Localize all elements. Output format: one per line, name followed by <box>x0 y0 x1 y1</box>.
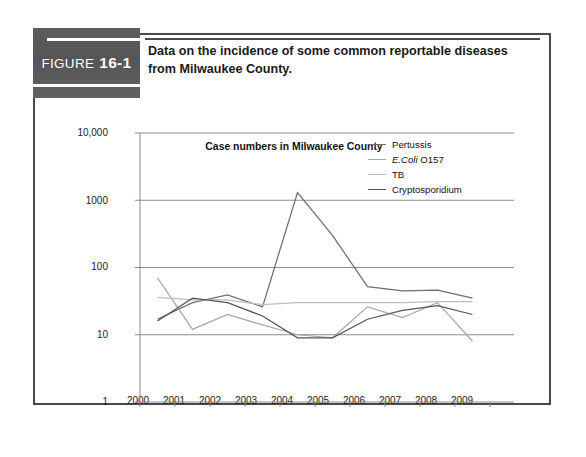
series-line <box>158 278 473 341</box>
figure-badge-label: FIGURE 16-1 <box>33 50 140 76</box>
legend-item-pertussis: Pertussis <box>368 137 488 152</box>
figure-number: 16-1 <box>99 54 131 72</box>
figure-word: FIGURE <box>41 56 94 71</box>
legend-label-italic: E.Coli <box>392 154 418 165</box>
legend-swatch <box>368 174 386 175</box>
series-line <box>158 298 473 338</box>
legend-label: E.Coli O157 <box>392 154 444 165</box>
legend-label: TB <box>392 169 404 180</box>
legend-swatch <box>368 144 386 145</box>
figure-caption: Data on the incidence of some common rep… <box>148 42 523 78</box>
legend-item-cryptosporidium: Cryptosporidium <box>368 182 488 197</box>
legend-item-tb: TB <box>368 167 488 182</box>
legend-label: Pertussis <box>392 139 431 150</box>
series-line <box>158 297 473 304</box>
legend-item-ecoli: E.Coli O157 <box>368 152 488 167</box>
header-rule <box>140 38 540 40</box>
legend-swatch <box>368 159 386 160</box>
chart-legend: Pertussis E.Coli O157 TB Cryptosporidium <box>368 137 488 197</box>
badge-rule-top <box>47 38 145 41</box>
legend-label: Cryptosporidium <box>392 184 462 195</box>
data-series <box>158 193 473 342</box>
badge-rule-bottom <box>33 84 145 87</box>
legend-swatch <box>368 189 386 190</box>
legend-label-rest: O157 <box>418 154 444 165</box>
